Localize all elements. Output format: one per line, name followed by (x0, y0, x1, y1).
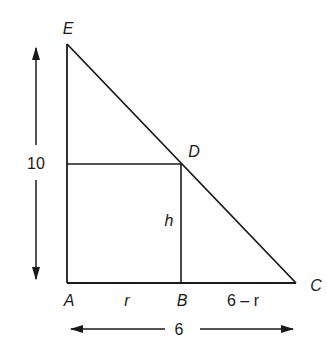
point-label-d: D (188, 143, 200, 160)
segment-label-bd: h (165, 212, 174, 229)
point-label-b: B (177, 292, 188, 309)
segment-label-ab: r (124, 292, 130, 309)
segment-label-bc: 6 – r (227, 292, 260, 309)
triangle-diagram: 10 6 E D A B C r 6 – r h (0, 0, 327, 355)
base-label: 6 (175, 321, 184, 338)
point-label-a: A (63, 292, 75, 309)
height-label: 10 (27, 155, 45, 172)
point-label-c: C (310, 277, 322, 294)
point-label-e: E (63, 20, 74, 37)
